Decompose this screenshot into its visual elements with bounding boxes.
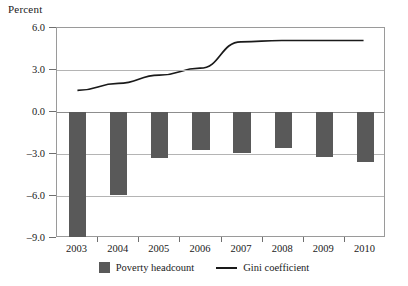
bar-2006 [192,112,209,150]
legend-label: Gini coefficient [243,262,309,273]
y-tick-label: 0.0 [32,106,45,117]
x-tick-mark [179,237,180,242]
x-tick-mark [97,237,98,242]
y-tick-mark [49,69,56,70]
y-axis: 6.03.00.0–3.0–6.0–9.0 [0,27,56,237]
x-tick-label-2009: 2009 [313,243,334,254]
square-swatch-icon [99,262,110,273]
gridline--6 [57,196,384,197]
bar-2008 [275,112,292,148]
bar-2010 [357,112,374,162]
bar-2003 [69,112,86,237]
chart-container: Percent 6.03.00.0–3.0–6.0–9.0 2003200420… [0,0,408,286]
gridline-3 [57,70,384,71]
bar-2007 [233,112,250,153]
gini-line-path [77,40,363,90]
y-tick-mark [49,153,56,154]
x-tick-label-2008: 2008 [272,243,293,254]
y-tick-mark [49,27,56,28]
legend-item[interactable]: Poverty headcount [99,262,194,273]
chart-legend: Poverty headcountGini coefficient [0,262,408,273]
y-axis-unit-label: Percent [8,3,42,15]
x-tick-label-2010: 2010 [354,243,375,254]
y-tick-mark [49,237,56,238]
y-tick-mark [49,111,56,112]
x-tick-mark [303,237,304,242]
y-tick-label: 3.0 [32,64,45,75]
x-tick-label-2007: 2007 [231,243,252,254]
y-tick-label: –3.0 [27,148,45,159]
x-tick-label-2004: 2004 [107,243,128,254]
x-tick-label-2006: 2006 [189,243,210,254]
gridline--3 [57,154,384,155]
line-swatch-icon [216,267,237,269]
x-tick-mark [344,237,345,242]
y-tick-label: 6.0 [32,22,45,33]
bar-2009 [316,112,333,157]
y-tick-label: –6.0 [27,190,45,201]
bar-2005 [151,112,168,158]
x-tick-label-2005: 2005 [148,243,169,254]
x-tick-mark [221,237,222,242]
bar-2004 [110,112,127,195]
x-tick-label-2003: 2003 [66,243,87,254]
plot-area [56,27,385,237]
y-tick-mark [49,195,56,196]
y-tick-label: –9.0 [27,232,45,243]
gridline-0 [57,112,384,113]
gini-coefficient-line [57,28,384,236]
legend-label: Poverty headcount [116,262,194,273]
x-tick-mark [262,237,263,242]
x-tick-mark [138,237,139,242]
legend-item[interactable]: Gini coefficient [216,262,309,273]
x-axis: 20032004200520062007200820092010 [56,237,385,259]
